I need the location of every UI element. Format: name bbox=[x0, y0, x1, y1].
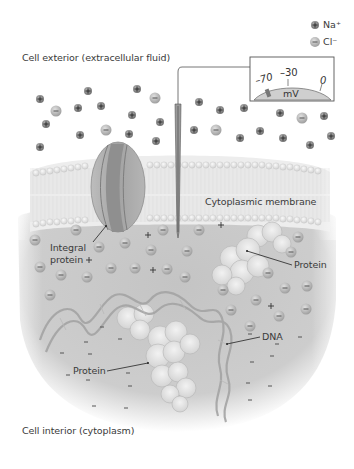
protein-label-right: Protein bbox=[294, 259, 327, 270]
meter-tick-zero: 0 bbox=[320, 75, 326, 86]
integral-protein-label-line1: Integral bbox=[50, 242, 86, 253]
diagram-canvas bbox=[0, 0, 354, 469]
integral-protein-channel bbox=[91, 142, 145, 232]
integral-protein-label-line2: protein bbox=[50, 254, 83, 265]
legend-cl-icon bbox=[310, 37, 320, 47]
legend-cl-label: Cl⁻ bbox=[323, 36, 337, 47]
legend-na-icon bbox=[311, 21, 319, 29]
meter-tick-minus30: –30 bbox=[280, 67, 298, 78]
dna-label: DNA bbox=[262, 331, 283, 342]
exterior-label: Cell exterior (extracellular fluid) bbox=[22, 52, 170, 63]
legend-na-label: Na⁺ bbox=[323, 19, 341, 30]
interior-label: Cell interior (cytoplasm) bbox=[22, 425, 134, 436]
diagram-membrane-potential: Cell exterior (extracellular fluid) Cyto… bbox=[0, 0, 354, 469]
meter-unit: mV bbox=[283, 88, 299, 99]
membrane-label: Cytoplasmic membrane bbox=[205, 196, 316, 207]
protein-label-bottom: Protein bbox=[73, 365, 106, 376]
